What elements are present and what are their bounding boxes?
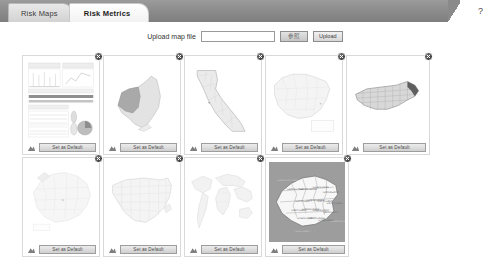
set-as-default-button[interactable]: Set as Default	[282, 245, 345, 254]
card-footer: Set as Default	[269, 143, 339, 152]
card-footer: Set as Default	[350, 143, 426, 152]
set-as-default-button[interactable]: Set as Default	[282, 143, 339, 152]
card-footer: Set as Default	[188, 245, 258, 254]
map-card-north-carolina-counties-map[interactable]: Set as Default	[346, 55, 430, 155]
set-as-default-label: Set as Default	[298, 247, 328, 252]
set-as-default-button[interactable]: Set as Default	[363, 143, 426, 152]
close-icon[interactable]	[256, 154, 265, 163]
close-icon[interactable]	[175, 154, 184, 163]
map-card-row: Set as Default	[22, 157, 470, 257]
svg-text:\u4fc4\u7f57\u65af: \u4fc4\u7f57\u65af	[277, 179, 298, 182]
set-as-default-label: Set as Default	[52, 247, 82, 252]
upload-button-label: Upload	[319, 33, 336, 39]
help-icon[interactable]: ?	[478, 7, 483, 16]
close-icon[interactable]	[175, 52, 184, 61]
set-as-default-label: Set as Default	[133, 247, 163, 252]
set-as-default-button[interactable]: Set as Default	[201, 143, 258, 152]
map-card-row: Set as Default	[22, 55, 470, 155]
card-footer: Set as Default	[26, 245, 96, 254]
map-thumbnail	[107, 162, 177, 242]
set-as-default-label: Set as Default	[379, 145, 409, 150]
set-default-icon	[189, 143, 198, 152]
tab-bar: Risk Maps Risk Metrics ?	[0, 0, 490, 22]
map-thumbnail	[107, 60, 177, 140]
map-thumbnail	[350, 60, 426, 140]
set-default-icon	[108, 245, 117, 254]
map-card-europe-map[interactable]: Set as Default	[22, 157, 100, 257]
close-icon[interactable]	[424, 52, 433, 61]
tab-risk-metrics[interactable]: Risk Metrics	[69, 3, 150, 22]
set-default-icon	[351, 143, 360, 152]
map-card-usa-counties-map[interactable]: Set as Default	[103, 157, 181, 257]
set-default-icon	[189, 245, 198, 254]
close-icon[interactable]	[94, 52, 103, 61]
map-card-dashboard-report[interactable]: Set as Default	[22, 55, 100, 155]
set-default-icon	[27, 245, 36, 254]
set-default-icon	[270, 143, 279, 152]
card-footer: Set as Default	[107, 245, 177, 254]
set-as-default-label: Set as Default	[133, 145, 163, 150]
tab-risk-metrics-label: Risk Metrics	[84, 9, 131, 18]
set-default-icon	[108, 143, 117, 152]
set-as-default-label: Set as Default	[214, 145, 244, 150]
upload-file-input[interactable]	[201, 31, 275, 42]
map-thumbnail	[26, 60, 96, 140]
browse-button-label: 参照	[288, 32, 300, 40]
svg-text:\u9ed1\u9f99: \u9ed1\u9f99	[313, 186, 330, 189]
tab-bar-notch	[460, 0, 490, 22]
svg-text:\u6c5f\u82cf: \u6c5f\u82cf	[323, 211, 338, 214]
card-footer: Set as Default	[269, 245, 345, 254]
set-as-default-label: Set as Default	[52, 145, 82, 150]
map-thumbnail	[188, 60, 258, 140]
set-as-default-label: Set as Default	[295, 145, 325, 150]
set-as-default-button[interactable]: Set as Default	[39, 245, 96, 254]
upload-toolbar: Upload map file 参照 Upload	[0, 28, 490, 44]
close-icon[interactable]	[343, 154, 352, 163]
svg-text:\u53f0\u6e7e: \u53f0\u6e7e	[330, 220, 345, 223]
map-card-world-map[interactable]: Set as Default	[184, 157, 262, 257]
map-card-china-provinces-map[interactable]: \u65b0\u7586 \u5185\u8499 \u9ed1\u9f99 \…	[265, 157, 349, 257]
browse-button[interactable]: 参照	[280, 31, 308, 42]
map-card-spain-provinces-map[interactable]: Set as Default	[265, 55, 343, 155]
close-icon[interactable]	[337, 52, 346, 61]
card-footer: Set as Default	[188, 143, 258, 152]
upload-map-file-label: Upload map file	[147, 33, 196, 40]
map-thumbnail	[269, 60, 339, 140]
svg-text:\u5409\u6797: \u5409\u6797	[323, 191, 340, 194]
card-footer: Set as Default	[107, 143, 177, 152]
map-thumbnail	[26, 162, 96, 242]
tab-list: Risk Maps Risk Metrics	[8, 3, 145, 22]
tab-risk-maps[interactable]: Risk Maps	[8, 3, 73, 22]
risk-metrics-page: Risk Maps Risk Metrics ? Upload map file…	[0, 0, 490, 277]
set-as-default-label: Set as Default	[214, 247, 244, 252]
set-default-icon	[270, 245, 279, 254]
set-as-default-button[interactable]: Set as Default	[201, 245, 258, 254]
map-card-grid: Set as Default	[22, 55, 470, 257]
set-as-default-button[interactable]: Set as Default	[39, 143, 96, 152]
svg-text:\u5357\u6d77: \u5357\u6d77	[295, 230, 311, 233]
set-as-default-button[interactable]: Set as Default	[120, 143, 177, 152]
map-card-new-york-state-map[interactable]: Set as Default	[103, 55, 181, 155]
set-as-default-button[interactable]: Set as Default	[120, 245, 177, 254]
set-default-icon	[27, 143, 36, 152]
map-thumbnail	[188, 162, 258, 242]
map-card-california-counties-map[interactable]: Set as Default	[184, 55, 262, 155]
card-footer: Set as Default	[26, 143, 96, 152]
map-thumbnail: \u65b0\u7586 \u5185\u8499 \u9ed1\u9f99 \…	[269, 162, 345, 242]
close-icon[interactable]	[94, 154, 103, 163]
tab-risk-maps-label: Risk Maps	[21, 9, 58, 18]
close-icon[interactable]	[256, 52, 265, 61]
svg-text:\u5c71\u4e1c: \u5c71\u4e1c	[326, 202, 343, 205]
upload-button[interactable]: Upload	[313, 31, 343, 42]
